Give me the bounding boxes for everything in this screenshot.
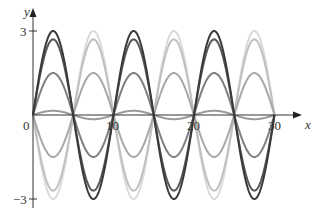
y-axis-label: y bbox=[22, 4, 30, 19]
x-tick-label-10: 10 bbox=[106, 118, 119, 133]
y-axis-arrow-icon bbox=[30, 8, 37, 17]
y-tick-label-bottom: −3 bbox=[13, 192, 27, 207]
x-axis-arrow-icon bbox=[293, 112, 302, 119]
x-tick-label-30: 30 bbox=[268, 118, 281, 133]
origin-label: 0 bbox=[23, 118, 30, 133]
y-tick-label-top: 3 bbox=[20, 24, 27, 39]
standing-wave-chart: y x 3 −3 0 10 20 30 bbox=[0, 0, 320, 219]
x-tick-label-20: 20 bbox=[187, 118, 200, 133]
x-axis-label: x bbox=[304, 117, 311, 132]
